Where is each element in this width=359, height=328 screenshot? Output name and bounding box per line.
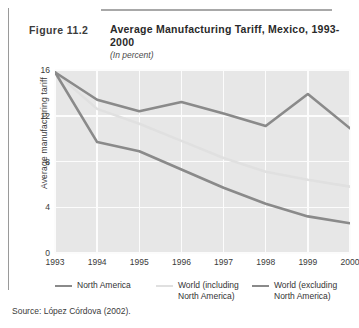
- source-note: Source: López Córdova (2002).: [12, 306, 131, 316]
- page-title: Average Manufacturing Tariff, Mexico, 19…: [110, 23, 350, 48]
- x-axis-tick-label: 1994: [88, 257, 107, 267]
- x-axis-tick-label: 1999: [298, 257, 317, 267]
- legend-label-world-including-north-america: World (including North America): [178, 280, 239, 302]
- legend-label-world-excluding-north-america: World (excluding North America): [274, 280, 337, 302]
- figure-number: Figure 11.2: [29, 24, 88, 36]
- legend-swatch-world-excluding-north-america: [252, 285, 269, 288]
- x-axis-tick-label: 1998: [256, 257, 275, 267]
- x-axis-tick-label: 1993: [46, 257, 65, 267]
- plot-wrapper: 0481216 19931994199519961997199819992000: [55, 70, 350, 253]
- y-axis-tick-label: 12: [41, 111, 50, 121]
- x-axis-tick-label: 1997: [214, 257, 233, 267]
- series-line-2: [55, 72, 350, 128]
- series-line-1: [55, 72, 350, 186]
- plot-area: [55, 70, 350, 253]
- y-axis-tick-label: 16: [41, 65, 50, 75]
- legend-item-world-excluding-north-america: World (excluding North America): [252, 280, 337, 302]
- x-axis-tick-label: 1996: [172, 257, 191, 267]
- series-lines: [55, 70, 350, 253]
- x-axis-tick-label: 2000: [341, 257, 359, 267]
- y-axis-tick-label: 4: [45, 202, 50, 212]
- legend-item-north-america: North America: [55, 280, 131, 291]
- legend-swatch-world-including-north-america: [156, 285, 173, 288]
- legend-label-north-america: North America: [77, 280, 131, 291]
- x-axis-tick-label: 1995: [130, 257, 149, 267]
- legend-item-world-including-north-america: World (including North America): [156, 280, 239, 302]
- y-axis-tick-label: 8: [45, 157, 50, 167]
- figure-subtitle: (In percent): [110, 50, 153, 60]
- legend-swatch-north-america: [55, 285, 72, 288]
- chart-legend: North America World (including North Ame…: [55, 280, 351, 304]
- figure-frame: Figure 11.2 Average Manufacturing Tariff…: [8, 8, 340, 290]
